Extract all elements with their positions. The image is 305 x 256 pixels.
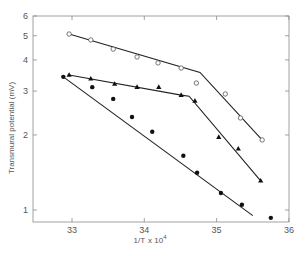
- x-axis-ticks: 33343536: [67, 16, 294, 235]
- open-circle-marker: [223, 92, 227, 96]
- filled-triangle-marker: [156, 84, 161, 89]
- fit-line: [69, 34, 262, 140]
- open-circle-marker: [260, 138, 264, 142]
- y-tick-label: 2: [23, 130, 28, 140]
- y-axis-label: Transmural potential (mV): [7, 82, 16, 175]
- y-tick-label: 3: [23, 86, 28, 96]
- filled-circle-marker: [130, 115, 134, 119]
- filled-triangle-marker: [67, 72, 72, 77]
- fit-line: [63, 77, 253, 216]
- filled-circle-marker: [150, 130, 154, 134]
- y-tick-label: 4: [23, 55, 28, 65]
- data-points: [61, 32, 273, 220]
- filled-circle-marker: [111, 97, 115, 101]
- y-axis-ticks: 123456: [23, 11, 289, 215]
- filled-triangle-marker: [216, 134, 221, 139]
- y-tick-label: 5: [23, 31, 28, 41]
- x-axis-label-main: 1/T: [133, 236, 145, 245]
- plot-frame: [33, 16, 289, 222]
- open-circle-marker: [89, 38, 93, 42]
- x-axis-label: 1/Tx 104: [133, 234, 167, 245]
- filled-circle-marker: [219, 191, 223, 195]
- filled-circle-marker: [240, 203, 244, 207]
- filled-circle-marker: [61, 75, 65, 79]
- filled-circle-marker: [90, 85, 94, 89]
- x-tick-label: 34: [139, 225, 149, 235]
- x-tick-label: 36: [284, 225, 294, 235]
- open-circle-marker: [67, 32, 71, 36]
- filled-circle-marker: [269, 216, 273, 220]
- open-circle-marker: [238, 116, 242, 120]
- fit-lines: [63, 34, 262, 216]
- x-axis-label-mult: x 10: [148, 236, 164, 245]
- open-circle-marker: [156, 61, 160, 65]
- y-tick-label: 1: [23, 205, 28, 215]
- chart: 123456 33343536 Transmural potential (mV…: [0, 0, 305, 256]
- open-circle-marker: [135, 55, 139, 59]
- plot-border: [33, 16, 289, 222]
- open-circle-marker: [179, 66, 183, 70]
- filled-circle-marker: [181, 154, 185, 158]
- open-circle-marker: [194, 81, 198, 85]
- filled-circle-marker: [195, 171, 199, 175]
- open-circle-marker: [111, 47, 115, 51]
- x-tick-label: 33: [67, 225, 77, 235]
- y-tick-label: 6: [23, 11, 28, 21]
- filled-triangle-marker: [236, 146, 241, 151]
- x-tick-label: 35: [212, 225, 222, 235]
- x-axis-label-exp: 4: [163, 234, 167, 240]
- fit-line: [69, 75, 261, 181]
